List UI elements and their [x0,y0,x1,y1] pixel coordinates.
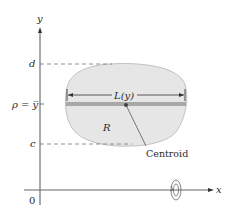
length-label: L(y) [113,90,134,101]
d-label: d [29,58,35,69]
diagram-svg: y x 0 d ρ = y̅ c L(y) R Centroid [0,0,226,217]
region-label: R [102,122,111,133]
c-label: c [30,138,36,149]
origin-label: 0 [29,195,35,206]
centroid-revolution-diagram: y x 0 d ρ = y̅ c L(y) R Centroid [0,0,226,217]
rho-label: ρ = y̅ [11,99,39,110]
centroid-label: Centroid [146,148,188,159]
y-axis-label: y [36,13,43,24]
x-axis-label: x [216,184,222,195]
x-axis-arrow-icon [208,188,214,192]
y-axis-arrow-icon [38,27,42,33]
